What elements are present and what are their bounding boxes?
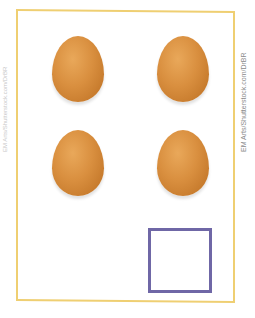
photo-credit-faded: EM Arts/Shutterstock.com/DrBR bbox=[2, 12, 10, 152]
photo-credit: EM Arts/Shutterstock.com/DrBR bbox=[240, 12, 252, 152]
answer-box[interactable] bbox=[148, 228, 212, 293]
